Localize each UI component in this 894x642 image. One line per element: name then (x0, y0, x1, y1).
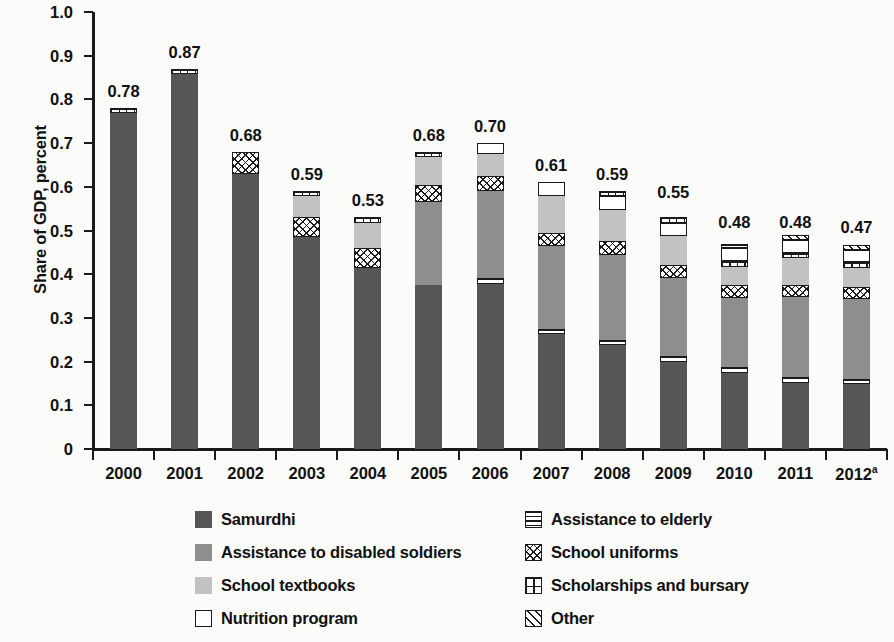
bar-segment-scholar[interactable] (110, 108, 137, 112)
legend-item-textbooks[interactable]: School textbooks (195, 576, 525, 595)
bar-segment-nutrition[interactable] (477, 143, 504, 154)
legend-item-nutrition[interactable]: Nutrition program (195, 609, 525, 628)
bar-segment-uniforms[interactable] (660, 265, 687, 278)
legend-item-samurdhi[interactable]: Samurdhi (195, 510, 525, 529)
bar-total-label: 0.59 (596, 165, 628, 184)
bar-segment-uniforms[interactable] (843, 287, 870, 299)
bar-segment-elderly[interactable] (660, 356, 687, 362)
bar-segment-nutrition[interactable] (599, 196, 626, 209)
legend-item-scholar[interactable]: Scholarships and bursary (525, 576, 885, 595)
bar-segment-samurdhi[interactable] (599, 345, 626, 449)
bar-segment-soldiers[interactable] (477, 191, 504, 278)
bar-segment-elderly[interactable] (782, 377, 809, 384)
bar-segment-samurdhi[interactable] (782, 383, 809, 449)
bar-segment-scholar[interactable] (293, 191, 320, 195)
bar-segment-samurdhi[interactable] (477, 284, 504, 449)
bar-segment-elderly[interactable] (599, 340, 626, 345)
bar-segment-soldiers[interactable] (721, 298, 748, 367)
y-axis-tick-label: 0.6 (21, 177, 73, 196)
bar-segment-scholar[interactable] (721, 261, 748, 267)
bar-segment-samurdhi[interactable] (415, 285, 442, 449)
bar-2000[interactable]: 0.78 (110, 108, 137, 449)
bar-segment-textbooks[interactable] (599, 210, 626, 242)
bar-2001[interactable]: 0.87 (171, 69, 198, 449)
bar-2009[interactable]: 0.55 (660, 209, 687, 449)
bar-segment-textbooks[interactable] (660, 236, 687, 265)
bar-segment-soldiers[interactable] (415, 202, 442, 285)
bar-segment-uniforms[interactable] (721, 285, 748, 298)
bar-segment-elderly[interactable] (721, 244, 748, 248)
bar-segment-soldiers[interactable] (660, 278, 687, 356)
legend-item-other[interactable]: Other (525, 609, 885, 628)
x-axis-tick (336, 449, 338, 460)
bar-segment-scholar[interactable] (599, 191, 626, 196)
bar-segment-scholar[interactable] (843, 262, 870, 268)
legend-swatch-open-white-icon (195, 610, 212, 627)
bar-2007[interactable]: 0.61 (538, 182, 565, 449)
bar-segment-soldiers[interactable] (538, 246, 565, 329)
bar-2011[interactable]: 0.48 (782, 239, 809, 449)
bar-segment-elderly[interactable] (477, 278, 504, 284)
bar-segment-other[interactable] (843, 245, 870, 251)
bar-segment-samurdhi[interactable] (293, 237, 320, 449)
bar-2005[interactable]: 0.68 (415, 152, 442, 449)
bar-segment-textbooks[interactable] (293, 196, 320, 218)
bar-segment-scholar[interactable] (415, 152, 442, 157)
bar-2012[interactable]: 0.47 (843, 244, 870, 449)
bar-2006[interactable]: 0.70 (477, 143, 504, 449)
legend-item-soldiers[interactable]: Assistance to disabled soldiers (195, 543, 525, 562)
bar-segment-soldiers[interactable] (782, 297, 809, 377)
bar-segment-samurdhi[interactable] (354, 268, 381, 449)
bar-segment-textbooks[interactable] (477, 154, 504, 176)
bar-segment-samurdhi[interactable] (660, 362, 687, 449)
bar-segment-textbooks[interactable] (354, 223, 381, 248)
bar-segment-samurdhi[interactable] (171, 74, 198, 449)
bar-segment-uniforms[interactable] (293, 217, 320, 237)
bar-segment-textbooks[interactable] (843, 268, 870, 288)
bar-segment-other[interactable] (782, 235, 809, 240)
bar-segment-uniforms[interactable] (782, 285, 809, 297)
y-axis-tick-label: 0.1 (21, 396, 73, 415)
bar-2010[interactable]: 0.48 (721, 239, 748, 449)
bar-2008[interactable]: 0.59 (599, 191, 626, 449)
bar-segment-scholar[interactable] (782, 253, 809, 258)
bar-segment-samurdhi[interactable] (843, 384, 870, 449)
bar-segment-samurdhi[interactable] (721, 373, 748, 449)
bar-segment-nutrition[interactable] (660, 223, 687, 236)
bar-2004[interactable]: 0.53 (354, 217, 381, 449)
x-axis-tick (642, 449, 644, 460)
legend-item-elderly[interactable]: Assistance to elderly (525, 510, 885, 529)
bar-segment-elderly[interactable] (843, 379, 870, 385)
bar-segment-samurdhi[interactable] (232, 174, 259, 449)
legend-item-uniforms[interactable]: School uniforms (525, 543, 885, 562)
bar-segment-soldiers[interactable] (599, 255, 626, 340)
bar-segment-uniforms[interactable] (354, 248, 381, 268)
bar-segment-soldiers[interactable] (843, 299, 870, 379)
bar-segment-uniforms[interactable] (538, 233, 565, 246)
bar-segment-scholar[interactable] (354, 217, 381, 222)
bar-segment-uniforms[interactable] (232, 152, 259, 174)
bar-segment-elderly[interactable] (538, 329, 565, 334)
bar-segment-textbooks[interactable] (782, 258, 809, 284)
bar-total-label: 0.87 (169, 43, 201, 62)
bar-segment-uniforms[interactable] (415, 185, 442, 202)
bar-segment-nutrition[interactable] (843, 250, 870, 262)
bar-segment-uniforms[interactable] (599, 241, 626, 254)
bar-2002[interactable]: 0.68 (232, 152, 259, 449)
bar-segment-scholar[interactable] (171, 69, 198, 74)
bar-segment-samurdhi[interactable] (538, 334, 565, 449)
bar-segment-nutrition[interactable] (782, 240, 809, 253)
bar-segment-samurdhi[interactable] (110, 113, 137, 449)
bar-segment-elderly[interactable] (721, 367, 748, 373)
bar-segment-textbooks[interactable] (721, 267, 748, 285)
plot-area: 1.00.90.80.70.60.50.40.30.20.10 20002001… (93, 12, 887, 449)
y-axis-tick (84, 317, 93, 319)
bar-segment-nutrition[interactable] (538, 182, 565, 195)
bar-segment-nutrition[interactable] (721, 248, 748, 261)
bar-segment-textbooks[interactable] (415, 157, 442, 185)
bar-2003[interactable]: 0.59 (293, 191, 320, 449)
bar-segment-uniforms[interactable] (477, 176, 504, 191)
bar-segment-scholar[interactable] (660, 217, 687, 223)
y-axis-tick (84, 361, 93, 363)
bar-segment-textbooks[interactable] (538, 196, 565, 233)
